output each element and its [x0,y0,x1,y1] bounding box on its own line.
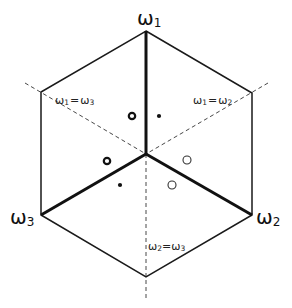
vertex-label-w2: ω2 [256,205,280,229]
marker-open-circle-thin [183,156,191,164]
marker-filled-dot [157,114,161,118]
marker-open-circle-thick [129,113,135,119]
equality-label-w1-eq-w2: ω1=ω2 [193,94,232,107]
dashed-line-w1-eq-w2 [146,83,268,154]
marker-open-circle-thin [168,181,176,189]
vertex-label-w3: ω3 [10,205,34,229]
marker-open-circle-thick [104,158,110,164]
spoke-w2 [146,154,252,215]
marker-filled-dot [118,183,122,187]
hexagon-diagram: ω1 ω2 ω3 ω1=ω3 ω1=ω2 ω2=ω3 [0,0,292,308]
vertex-label-w1: ω1 [137,6,161,30]
spoke-w3 [41,154,146,215]
equality-label-w2-eq-w3: ω2=ω3 [148,240,185,253]
equality-label-w1-eq-w3: ω1=ω3 [55,94,94,107]
